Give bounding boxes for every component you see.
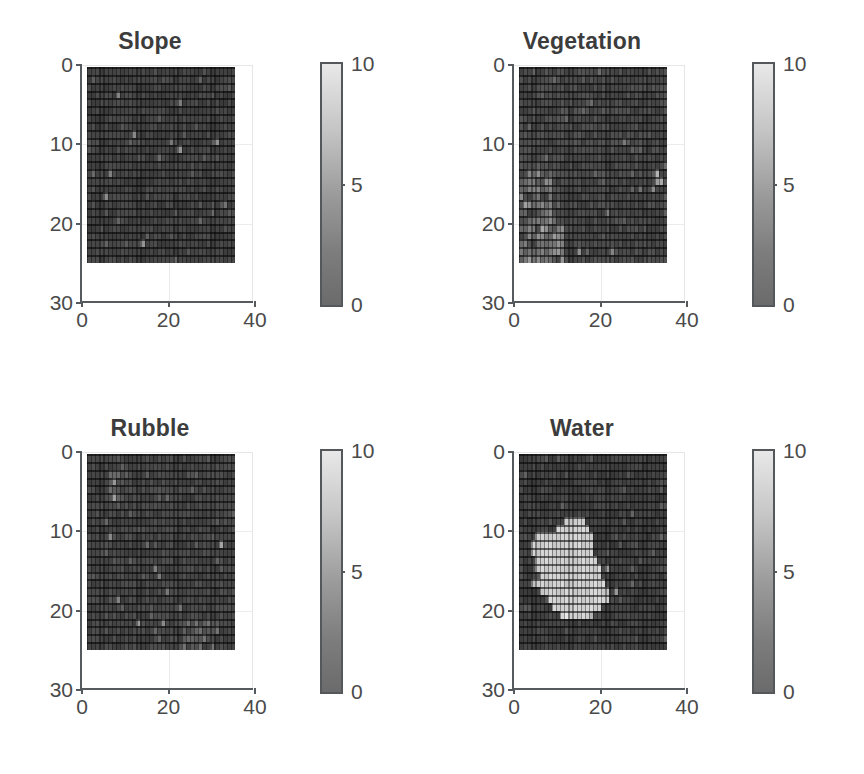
- heatmap-cell: [663, 200, 667, 208]
- x-tick-label: 20: [589, 695, 612, 719]
- y-tick-label: 10: [482, 132, 505, 156]
- x-tick-label: 40: [675, 695, 698, 719]
- heatmap-cell: [663, 470, 667, 478]
- x-tick-label: 0: [76, 308, 88, 332]
- heatmap-cell: [663, 587, 667, 595]
- y-tick-label: 0: [61, 53, 73, 77]
- x-tick-mark: [168, 301, 170, 307]
- y-tick-label: 0: [61, 440, 73, 464]
- heatmap-cell: [663, 169, 667, 177]
- colorbar-tick-label: 5: [783, 173, 795, 197]
- heatmap-cell: [231, 232, 235, 240]
- colorbar-vegetation: 1050: [752, 62, 775, 307]
- heatmap-cell: [663, 619, 667, 627]
- colorbar-tick-mark: [773, 571, 777, 573]
- heatmap-cell: [231, 138, 235, 146]
- x-tick-mark: [600, 688, 602, 694]
- y-tick-label: 20: [50, 599, 73, 623]
- heatmap-cell: [231, 114, 235, 122]
- axes-water: 010203002040: [512, 452, 685, 690]
- heatmap-image-water: [519, 454, 667, 650]
- heatmap-cell: [663, 493, 667, 501]
- y-tick-mark: [76, 451, 82, 453]
- heatmap-cell: [663, 67, 667, 75]
- heatmap-cell: [663, 75, 667, 83]
- colorbar-slope: 1050: [320, 62, 343, 307]
- y-tick-mark: [508, 530, 514, 532]
- heatmap-cell: [231, 454, 235, 462]
- heatmap-cell: [231, 595, 235, 603]
- colorbar-tick-label: 5: [783, 560, 795, 584]
- heatmap-cell: [231, 579, 235, 587]
- x-tick-mark: [168, 688, 170, 694]
- heatmap-cell: [231, 208, 235, 216]
- y-tick-label: 10: [482, 519, 505, 543]
- heatmap-cell: [663, 130, 667, 138]
- y-tick-mark: [76, 143, 82, 145]
- y-tick-label: 30: [50, 291, 73, 315]
- heatmap-cell: [663, 239, 667, 247]
- y-tick-mark: [76, 610, 82, 612]
- heatmap-cell: [231, 169, 235, 177]
- x-tick-label: 40: [243, 308, 266, 332]
- heatmap-cell: [663, 485, 667, 493]
- colorbar-tick-mark: [341, 571, 345, 573]
- heatmap-cell: [231, 177, 235, 185]
- heatmap-cell: [663, 634, 667, 642]
- subplot-title-rubble: Rubble: [0, 415, 300, 442]
- y-tick-mark: [508, 451, 514, 453]
- heatmap-cell: [231, 517, 235, 525]
- heatmap-cell: [663, 161, 667, 169]
- x-tick-label: 0: [508, 308, 520, 332]
- x-tick-label: 0: [508, 695, 520, 719]
- subplot-slope: Slope0102030020401050: [0, 0, 432, 387]
- y-tick-label: 0: [493, 440, 505, 464]
- colorbar-tick-label: 10: [783, 439, 806, 463]
- heatmap-cell: [663, 517, 667, 525]
- x-tick-label: 40: [243, 695, 266, 719]
- colorbar-tick-label: 5: [351, 173, 363, 197]
- y-tick-label: 20: [482, 212, 505, 236]
- x-tick-label: 20: [589, 308, 612, 332]
- y-tick-label: 30: [50, 678, 73, 702]
- y-tick-label: 10: [50, 132, 73, 156]
- y-tick-label: 10: [50, 519, 73, 543]
- heatmap-cell: [231, 462, 235, 470]
- heatmap-cell: [663, 579, 667, 587]
- x-tick-label: 40: [675, 308, 698, 332]
- heatmap-cell: [231, 153, 235, 161]
- heatmap-cell: [231, 98, 235, 106]
- heatmap-cell: [663, 556, 667, 564]
- colorbar-tick-label: 5: [351, 560, 363, 584]
- heatmap-cell: [231, 145, 235, 153]
- heatmap-image-rubble: [87, 454, 235, 650]
- y-tick-label: 30: [482, 291, 505, 315]
- colorbar-tick-mark: [773, 184, 777, 186]
- colorbar-tick-label: 10: [351, 439, 374, 463]
- heatmap-cell: [231, 161, 235, 169]
- heatmap-cell: [663, 564, 667, 572]
- heatmap-cell: [231, 587, 235, 595]
- heatmap-cell: [231, 525, 235, 533]
- heatmap-cell: [231, 509, 235, 517]
- heatmap-cell: [663, 478, 667, 486]
- heatmap-cell: [231, 255, 235, 263]
- subplot-vegetation: Vegetation0102030020401050: [432, 0, 864, 387]
- y-tick-mark: [508, 64, 514, 66]
- heatmap-cell: [663, 91, 667, 99]
- heatmap-cell: [231, 564, 235, 572]
- heatmap-cell: [663, 626, 667, 634]
- heatmap-cell: [231, 532, 235, 540]
- x-tick-label: 20: [157, 695, 180, 719]
- heatmap-cell: [663, 122, 667, 130]
- heatmap-cell: [231, 634, 235, 642]
- heatmap-cell: [663, 192, 667, 200]
- colorbar-tick-label: 0: [783, 293, 795, 317]
- heatmap-cell: [231, 83, 235, 91]
- heatmap-cell: [663, 642, 667, 650]
- heatmap-image-vegetation: [519, 67, 667, 263]
- heatmap-cell: [663, 509, 667, 517]
- heatmap-cell: [231, 556, 235, 564]
- colorbar-gradient: [322, 451, 341, 692]
- heatmap-cell: [663, 454, 667, 462]
